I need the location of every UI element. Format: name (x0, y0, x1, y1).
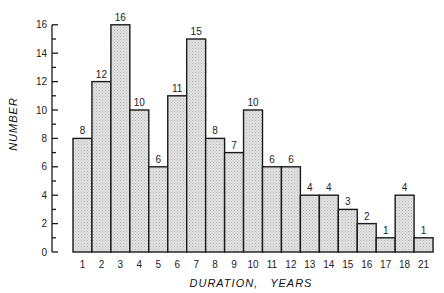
x-tick-label: 2 (99, 259, 105, 270)
bar-value-label: 7 (231, 140, 237, 151)
bar-18 (395, 195, 414, 252)
x-tick-label: 11 (267, 259, 278, 270)
x-tick-label: 18 (399, 259, 411, 270)
x-tick-label: 14 (323, 259, 335, 270)
x-tick-label: 8 (212, 259, 218, 270)
y-tick-label: 6 (41, 161, 47, 172)
bar-12 (281, 167, 300, 252)
x-axis-title: DURATION, YEARS (190, 277, 313, 289)
bar-13 (300, 195, 319, 252)
x-tick-label: 10 (247, 259, 259, 270)
bar-15 (338, 209, 357, 252)
x-tick-label: 4 (137, 259, 143, 270)
y-tick-label: 8 (41, 133, 47, 144)
bar-value-label: 4 (307, 182, 313, 193)
x-tick-label: 12 (285, 259, 297, 270)
x-tick-label: 9 (231, 259, 237, 270)
bar-14 (319, 195, 338, 252)
bar-9 (225, 153, 244, 252)
x-tick-label: 6 (174, 259, 180, 270)
x-tick-label: 7 (193, 259, 199, 270)
bars: 8121610611158710664432141 (73, 12, 433, 252)
bar-value-label: 12 (96, 69, 108, 80)
bar-value-label: 8 (212, 125, 218, 136)
bar-value-label: 1 (421, 225, 427, 236)
x-tick-label: 5 (155, 259, 161, 270)
bar-value-label: 3 (345, 196, 351, 207)
bar-value-label: 4 (326, 182, 332, 193)
x-tick-label: 1 (80, 259, 86, 270)
y-tick-label: 14 (36, 48, 48, 59)
bar-value-label: 11 (172, 83, 183, 94)
bar-value-label: 15 (191, 26, 203, 37)
bar-11 (263, 167, 282, 252)
bar-value-label: 16 (115, 12, 127, 23)
bar-value-label: 1 (383, 225, 389, 236)
y-tick-label: 0 (41, 247, 47, 258)
y-tick-label: 4 (41, 190, 47, 201)
bar-value-label: 4 (402, 182, 408, 193)
bar-value-label: 6 (288, 154, 294, 165)
bar-3 (111, 25, 130, 252)
x-axis-tick-labels: 12345678910111213141516171821 (80, 259, 430, 270)
x-tick-label: 16 (361, 259, 373, 270)
y-axis-title: NUMBER (7, 97, 19, 151)
y-tick-label: 2 (41, 218, 47, 229)
bar-5 (149, 167, 168, 252)
x-tick-label: 17 (380, 259, 392, 270)
y-axis: 0246810121416 (36, 19, 58, 257)
bar-value-label: 6 (269, 154, 275, 165)
bar-4 (130, 110, 149, 252)
bar-7 (187, 39, 206, 252)
bar-value-label: 10 (247, 97, 259, 108)
y-tick-label: 10 (36, 105, 48, 116)
bar-value-label: 8 (80, 125, 86, 136)
bar-value-label: 2 (364, 211, 370, 222)
bar-value-label: 6 (155, 154, 161, 165)
bar-1 (73, 138, 92, 252)
y-tick-label: 12 (36, 76, 48, 87)
x-tick-label: 13 (304, 259, 316, 270)
bar-8 (206, 138, 225, 252)
bar-10 (244, 110, 263, 252)
bar-17 (376, 238, 395, 252)
bar-value-label: 10 (134, 97, 146, 108)
x-tick-label: 3 (118, 259, 124, 270)
y-tick-label: 16 (36, 19, 48, 30)
bar-21 (414, 238, 433, 252)
x-tick-label: 21 (418, 259, 430, 270)
x-tick-label: 15 (342, 259, 354, 270)
bar-6 (168, 96, 187, 252)
bar-16 (357, 224, 376, 252)
bar-chart: 0246810121416 8121610611158710664432141 … (0, 0, 444, 293)
bar-2 (92, 82, 111, 252)
